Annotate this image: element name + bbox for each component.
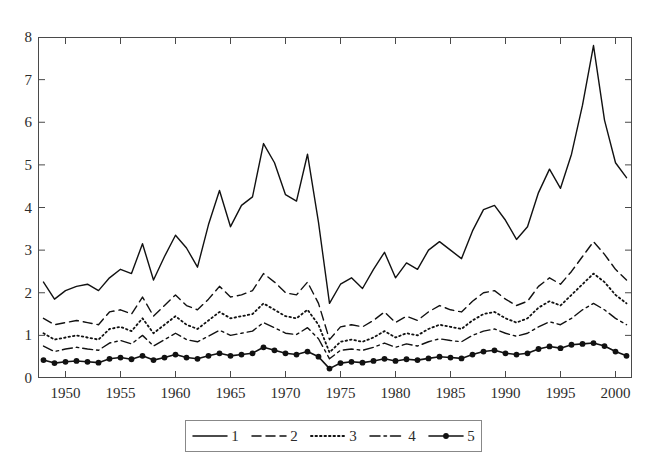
series-marker-5 — [569, 342, 575, 348]
y-tick-label: 3 — [2, 243, 32, 258]
legend-sample-2 — [251, 430, 287, 442]
series-marker-5 — [536, 346, 542, 352]
series-marker-5 — [382, 356, 388, 362]
series-marker-5 — [558, 345, 564, 351]
legend-label-5: 5 — [467, 429, 475, 444]
plot-svg — [38, 37, 632, 378]
series-marker-5 — [85, 359, 91, 365]
x-tick-label: 1980 — [366, 386, 426, 401]
series-line-1 — [44, 46, 627, 304]
series-marker-5 — [162, 355, 168, 361]
x-tick-label: 1985 — [421, 386, 481, 401]
series-marker-5 — [228, 353, 234, 359]
series-marker-5 — [250, 350, 256, 356]
legend-item-5: 5 — [428, 429, 475, 444]
y-tick-label: 1 — [2, 328, 32, 343]
series-marker-5 — [195, 356, 201, 362]
chart-title — [0, 0, 654, 2]
series-marker-5 — [217, 350, 223, 356]
series-marker-5 — [272, 347, 278, 353]
x-tick-label: 1955 — [91, 386, 151, 401]
legend-item-1: 1 — [192, 429, 239, 444]
legend-sample-5 — [428, 430, 464, 442]
series-marker-5 — [294, 352, 300, 358]
series-line-2 — [44, 242, 627, 340]
x-tick-label: 1960 — [146, 386, 206, 401]
series-marker-5 — [184, 355, 190, 361]
y-tick-label: 8 — [2, 30, 32, 45]
series-marker-5 — [602, 343, 608, 349]
series-marker-5 — [547, 344, 553, 350]
chart-container: 012345678 195019551960196519701975198019… — [0, 0, 654, 464]
plot-area — [38, 37, 632, 378]
x-tick-label: 1995 — [531, 386, 591, 401]
series-marker-5 — [173, 352, 179, 358]
series-marker-5 — [283, 350, 289, 356]
series-marker-5 — [591, 340, 597, 346]
legend-label-3: 3 — [349, 429, 357, 444]
series-marker-5 — [437, 354, 443, 360]
series-marker-5 — [415, 357, 421, 363]
x-tick-label: 1975 — [311, 386, 371, 401]
series-marker-5 — [63, 359, 69, 365]
series-marker-5 — [360, 360, 366, 366]
legend-item-2: 2 — [251, 429, 298, 444]
legend-sample-4 — [369, 430, 405, 442]
y-tick-label: 4 — [2, 201, 32, 216]
series-marker-5 — [349, 359, 355, 365]
y-tick-label: 6 — [2, 115, 32, 130]
legend-label-4: 4 — [408, 429, 416, 444]
series-marker-5 — [470, 352, 476, 358]
series-marker-5 — [327, 366, 333, 372]
legend-label-1: 1 — [231, 429, 239, 444]
series-marker-5 — [107, 356, 113, 362]
series-marker-5 — [151, 357, 157, 363]
series-marker-5 — [525, 350, 531, 356]
series-marker-5 — [514, 352, 520, 358]
series-marker-5 — [613, 349, 619, 355]
series-marker-5 — [41, 357, 47, 363]
series-marker-5 — [239, 352, 245, 358]
legend-label-2: 2 — [290, 429, 298, 444]
legend-sample-1 — [192, 430, 228, 442]
chart-legend: 12345 — [185, 420, 482, 452]
series-marker-5 — [393, 358, 399, 364]
legend-item-3: 3 — [310, 429, 357, 444]
series-marker-5 — [371, 358, 377, 364]
y-tick-label: 5 — [2, 158, 32, 173]
y-tick-label: 0 — [2, 371, 32, 386]
series-marker-5 — [74, 358, 80, 364]
y-tick-label: 7 — [2, 73, 32, 88]
series-marker-5 — [481, 349, 487, 355]
x-tick-label: 1990 — [476, 386, 536, 401]
series-marker-5 — [52, 360, 58, 366]
y-tick-label: 2 — [2, 286, 32, 301]
x-tick-label: 1970 — [256, 386, 316, 401]
series-marker-5 — [503, 350, 509, 356]
legend-item-4: 4 — [369, 429, 416, 444]
series-marker-5 — [261, 344, 267, 350]
x-tick-label: 2000 — [586, 386, 646, 401]
series-marker-5 — [624, 353, 630, 359]
x-tick-label: 1950 — [36, 386, 96, 401]
series-marker-5 — [426, 355, 432, 361]
series-marker-5 — [492, 347, 498, 353]
series-marker-5 — [129, 356, 135, 362]
series-marker-5 — [448, 355, 454, 361]
legend-sample-3 — [310, 430, 346, 442]
series-marker-5 — [140, 353, 146, 359]
series-marker-5 — [118, 355, 124, 361]
series-marker-5 — [404, 356, 410, 362]
series-marker-5 — [96, 360, 102, 366]
series-marker-5 — [316, 354, 322, 360]
series-marker-5 — [459, 355, 465, 361]
series-marker-5 — [580, 341, 586, 347]
series-marker-5 — [206, 353, 212, 359]
plot-frame — [39, 38, 632, 378]
x-tick-label: 1965 — [201, 386, 261, 401]
series-marker-5 — [338, 360, 344, 366]
series-marker-5 — [305, 349, 311, 355]
